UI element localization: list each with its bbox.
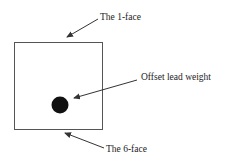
bottom-face-label: The 6-face [106,144,147,154]
weight-arrow [74,80,137,98]
die-diagram: The 1-face Offset lead weight The 6-face [0,0,227,163]
bottom-face-arrow [65,133,104,148]
lead-weight-dot [52,97,69,114]
top-face-arrow [67,19,98,37]
top-face-label: The 1-face [100,12,141,22]
weight-label: Offset lead weight [141,72,211,82]
die-square [15,43,103,130]
